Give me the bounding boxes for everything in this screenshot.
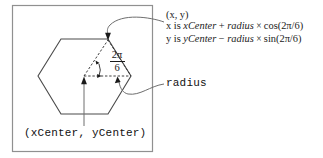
formula-y-times: × [254,34,264,44]
formula-y-radius: radius [227,33,254,44]
formula-x-prefix: x is [166,20,183,31]
center-callout-label: (xCenter, yCenter) [24,128,146,139]
formula-y-prefix: y is [166,33,183,44]
formula-x-center: xCenter [183,20,216,31]
formula-x-times: × [254,21,264,31]
formula-y-trig: sin(2π/6) [264,33,302,44]
angle-arc [99,64,100,76]
angle-fraction-denominator: 6 [104,62,130,73]
hexagon-figure: (x, y) x is xCenter + radius × cos(2π/6)… [0,0,323,158]
vertex-formula-y: y is yCenter − radius × sin(2π/6) [166,33,303,45]
angle-fraction-numerator: 2π [104,49,130,60]
formula-y-operator: − [216,33,227,44]
radius-callout-label: radius [166,78,207,89]
vertex-formula-x: x is xCenter + radius × cos(2π/6) [166,20,303,32]
xy-leader-line [107,17,164,34]
formula-x-radius: radius [227,20,254,31]
radius-leader-arrowhead [115,77,121,84]
angle-arrow-upper [96,61,100,65]
center-leader-arrowhead [81,77,87,85]
formula-x-operator: + [216,20,227,31]
vertex-point-label: (x, y) [166,9,303,20]
formula-y-center: yCenter [183,33,216,44]
formula-x-trig: cos(2π/6) [264,20,303,31]
vertex-formula-block: (x, y) x is xCenter + radius × cos(2π/6)… [166,9,303,45]
angle-fraction: 2π 6 [104,49,130,73]
